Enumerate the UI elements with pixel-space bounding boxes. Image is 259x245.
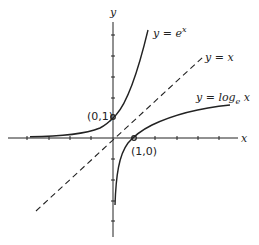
exp-label: y = ex xyxy=(152,25,187,40)
y-axis-label: y xyxy=(109,6,117,19)
identity-label: y = x xyxy=(204,51,234,64)
graph-canvas: y x y = ex y = x y = loge x (0,1) (1,0) xyxy=(0,0,259,245)
x-axis-label: x xyxy=(241,132,248,145)
point-0-1-label: (0,1) xyxy=(87,110,113,123)
log-label: y = loge x xyxy=(195,91,251,106)
point-1-0-label: (1,0) xyxy=(131,145,157,158)
identity-line xyxy=(36,57,203,211)
